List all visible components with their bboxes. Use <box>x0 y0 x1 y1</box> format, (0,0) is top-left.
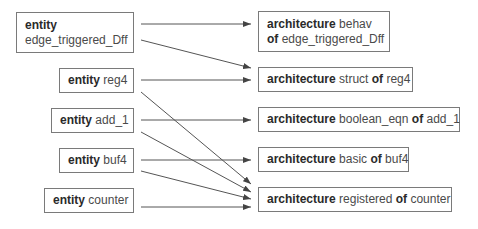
entity-keyword: entity <box>60 113 92 128</box>
architecture-struct: architecture struct of reg4 <box>258 67 413 92</box>
of-keyword: of <box>396 192 407 207</box>
entity-keyword: entity <box>53 193 85 208</box>
entity-keyword: entity <box>68 73 100 88</box>
architecture-boolean-eqn: architecture boolean_eqn of add_1 <box>258 107 460 132</box>
architecture-name: struct <box>339 72 368 87</box>
arrow-reg4-registered <box>141 92 251 184</box>
architecture-entity: reg4 <box>386 72 410 87</box>
arrow-dff-struct <box>141 40 251 68</box>
architecture-keyword: architecture <box>267 17 336 31</box>
of-keyword: of <box>372 72 383 87</box>
entity-name: reg4 <box>103 73 127 88</box>
architecture-keyword: architecture <box>267 152 336 167</box>
architecture-name: boolean_eqn <box>339 112 408 127</box>
architecture-basic: architecture basic of buf4 <box>258 147 409 172</box>
architecture-name: registered <box>339 192 392 207</box>
architecture-entity: buf4 <box>385 152 408 167</box>
architecture-name: behav <box>339 17 372 31</box>
entity-keyword: entity <box>25 18 57 32</box>
entity-keyword: entity <box>68 153 100 168</box>
entity-name: edge_triggered_Dff <box>25 33 128 47</box>
entity-counter: entity counter <box>44 188 134 213</box>
of-keyword: of <box>267 32 278 46</box>
architecture-name: basic <box>339 152 367 167</box>
entity-name: counter <box>88 193 128 208</box>
architecture-keyword: architecture <box>267 72 336 87</box>
of-keyword: of <box>412 112 423 127</box>
entity-name: buf4 <box>103 153 126 168</box>
arrow-add1-registered <box>141 132 251 192</box>
architecture-keyword: architecture <box>267 192 336 207</box>
architecture-keyword: architecture <box>267 112 336 127</box>
architecture-registered: architecture registered of counter <box>258 187 452 212</box>
of-keyword: of <box>370 152 381 167</box>
architecture-entity: add_1 <box>426 112 459 127</box>
entity-edge-triggered-dff: entity edge_triggered_Dff <box>16 12 134 53</box>
arrow-buf4-registered <box>141 171 251 199</box>
entity-reg4: entity reg4 <box>59 68 134 93</box>
architecture-entity: counter <box>410 192 450 207</box>
entity-buf4: entity buf4 <box>59 148 134 173</box>
architecture-entity: edge_triggered_Dff <box>282 32 385 46</box>
entity-add-1: entity add_1 <box>51 108 134 133</box>
entity-name: add_1 <box>95 113 128 128</box>
architecture-behav: architecture behav of edge_triggered_Dff <box>258 11 390 52</box>
